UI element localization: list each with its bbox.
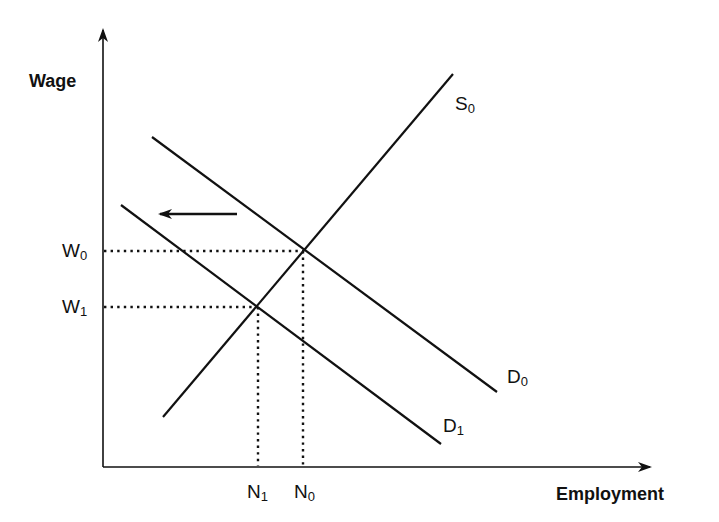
labor-market-diagram: Wage Employment W0 W1 N1 N0 S0 D0 D1 — [0, 0, 719, 522]
demand-curve-d1 — [121, 205, 441, 444]
curve-label-s0: S0 — [455, 94, 475, 115]
employment-label-n1: N1 — [247, 482, 268, 503]
wage-label-w1: W1 — [62, 297, 87, 318]
supply-curve-s0 — [163, 74, 453, 417]
employment-label-n0: N0 — [294, 482, 315, 503]
demand-curve-d0 — [152, 137, 497, 392]
wage-label-w0: W0 — [62, 241, 87, 262]
x-axis-title: Employment — [556, 485, 664, 503]
diagram-graphics — [0, 0, 719, 522]
curve-label-d1: D1 — [443, 416, 464, 437]
y-axis-title: Wage — [29, 72, 76, 90]
curve-label-d0: D0 — [507, 367, 528, 388]
